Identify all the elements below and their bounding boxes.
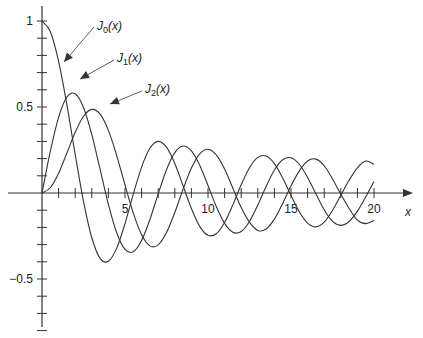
series-label: J0(x): [96, 19, 122, 35]
arrowhead-icon: [80, 71, 90, 79]
arrowhead-icon: [64, 53, 73, 62]
x-axis-label: x: [404, 205, 412, 219]
x-tick-label: 10: [201, 202, 215, 216]
bessel-chart: 5101520x10.5−0.5 J0(x)J1(x)J2(x): [0, 0, 423, 338]
x-tick-label: 20: [367, 202, 381, 216]
curve-j2x: [42, 109, 374, 247]
curve-j1x: [42, 93, 374, 252]
series-label: J1(x): [116, 51, 142, 67]
curve-j0x: [42, 21, 374, 262]
series-label: J2(x): [144, 82, 170, 98]
annotations: J0(x)J1(x)J2(x): [64, 19, 170, 104]
x-tick-label: 15: [284, 202, 298, 216]
x-axis-arrow-icon: [403, 189, 413, 197]
curves: [42, 21, 374, 262]
y-tick-label: 0.5: [16, 100, 33, 114]
y-tick-label: 1: [26, 14, 33, 28]
y-tick-label: −0.5: [9, 272, 33, 286]
